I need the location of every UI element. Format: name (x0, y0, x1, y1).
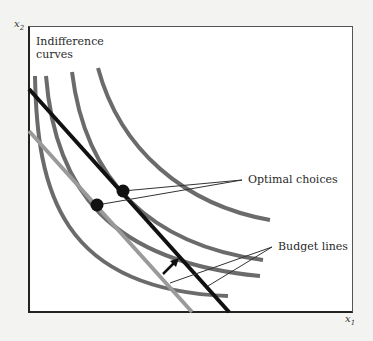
optimal-point-old (91, 199, 104, 212)
budget-lines-label: Budget lines (278, 240, 348, 253)
y-axis-label: x2 (14, 18, 24, 32)
budget-line-old (29, 131, 192, 312)
leader-optimal-1 (123, 180, 242, 191)
indifference-curve-1 (35, 76, 228, 296)
indifference-curves-label: Indifference curves (36, 35, 104, 61)
optimal-choices-label: Optimal choices (248, 173, 338, 186)
x-axis-label: x1 (345, 313, 355, 327)
shift-arrow-icon (163, 258, 179, 274)
budget-line-new (29, 89, 229, 312)
optimal-point-new (117, 185, 130, 198)
